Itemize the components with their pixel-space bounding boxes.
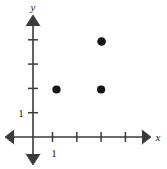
data-point-1-2 bbox=[52, 85, 60, 93]
coordinate-plane-figure: 1 1 x y bbox=[0, 0, 167, 169]
graph-canvas: 1 1 x y bbox=[0, 0, 167, 169]
data-points-group bbox=[52, 37, 105, 93]
y-axis-label: y bbox=[30, 1, 36, 13]
x-axis-group bbox=[5, 130, 151, 144]
x-axis-right-arrow-icon bbox=[142, 130, 151, 144]
y-axis-down-arrow-icon bbox=[26, 154, 40, 165]
data-point-3-2 bbox=[97, 85, 105, 93]
data-point-3-4 bbox=[97, 37, 106, 46]
x-tick-label-1: 1 bbox=[51, 147, 57, 159]
x-axis-label: x bbox=[155, 131, 161, 143]
y-axis-up-arrow-icon bbox=[26, 15, 40, 26]
x-axis-left-arrow-icon bbox=[5, 130, 14, 144]
y-axis-group bbox=[26, 15, 40, 165]
y-tick-label-1: 1 bbox=[18, 107, 24, 119]
